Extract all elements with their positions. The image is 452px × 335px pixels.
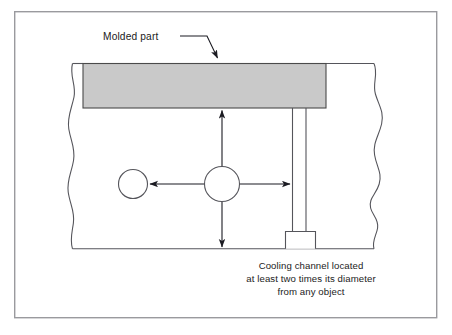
center-cooling-channel-circle (205, 167, 240, 202)
channel-base-box (286, 232, 316, 249)
figure-container: Molded part Cooling channel located at l… (0, 0, 452, 335)
molded-part-label: Molded part (103, 31, 158, 42)
caption-line-3: from any object (277, 286, 344, 297)
molded-part-rect (83, 64, 326, 109)
caption-line-1: Cooling channel located (259, 260, 364, 271)
diagram-canvas: Molded part Cooling channel located at l… (0, 0, 452, 335)
caption-line-2: at least two times its diameter (246, 273, 376, 284)
adjacent-cooling-channel-circle (119, 170, 148, 199)
